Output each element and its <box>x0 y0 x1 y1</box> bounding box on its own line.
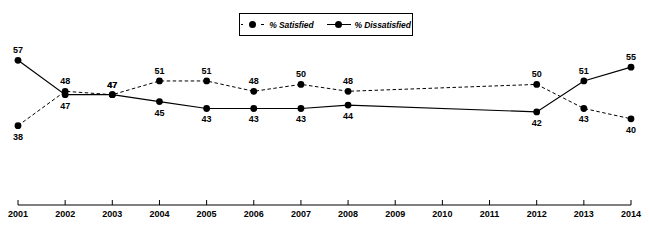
data-label: 51 <box>579 66 589 76</box>
data-label: 42 <box>532 118 542 128</box>
x-axis-tick-label: 2005 <box>197 209 217 219</box>
data-label: 44 <box>343 111 353 121</box>
x-axis-tick-label: 2007 <box>291 209 311 219</box>
data-point <box>580 105 587 112</box>
data-label: 47 <box>107 80 117 90</box>
data-label: 43 <box>579 114 589 124</box>
data-label: 50 <box>532 69 542 79</box>
data-point <box>156 78 163 85</box>
x-axis-tick-label: 2003 <box>102 209 122 219</box>
data-point <box>203 78 210 85</box>
data-point <box>15 57 22 64</box>
x-axis-tick-label: 2008 <box>338 209 358 219</box>
data-label: 43 <box>296 114 306 124</box>
x-axis-tick-label: 2013 <box>574 209 594 219</box>
data-point <box>345 102 352 109</box>
data-label: 48 <box>249 76 259 86</box>
data-label: 40 <box>626 125 636 135</box>
x-axis-tick-label: 2006 <box>244 209 264 219</box>
data-point <box>580 78 587 85</box>
data-point <box>628 64 635 71</box>
x-axis-tick-label: 2009 <box>385 209 405 219</box>
data-label: 47 <box>60 101 70 111</box>
data-label: 45 <box>154 108 164 118</box>
data-label: 38 <box>13 132 23 142</box>
chart-container: % Satisfied % Dissatisfied 2001200220032… <box>0 0 649 227</box>
data-point <box>109 91 116 98</box>
data-label: 57 <box>13 45 23 55</box>
data-label: 43 <box>249 114 259 124</box>
data-point <box>533 81 540 88</box>
x-axis-tick-label: 2014 <box>621 209 641 219</box>
data-label: 51 <box>202 66 212 76</box>
data-label: 55 <box>626 52 636 62</box>
x-axis: 2001200220032004200520062007200820092010… <box>8 200 641 219</box>
x-axis-tick-label: 2010 <box>432 209 452 219</box>
x-axis-tick-label: 2001 <box>8 209 28 219</box>
x-axis-tick-label: 2004 <box>149 209 169 219</box>
data-point <box>298 81 305 88</box>
data-label: 48 <box>60 76 70 86</box>
data-point <box>298 105 305 112</box>
data-label: 51 <box>154 66 164 76</box>
data-point <box>203 105 210 112</box>
x-axis-tick-label: 2002 <box>55 209 75 219</box>
data-label: 50 <box>296 69 306 79</box>
data-point <box>533 109 540 116</box>
data-point <box>250 105 257 112</box>
data-point <box>15 122 22 129</box>
data-point <box>250 88 257 95</box>
data-point <box>156 98 163 105</box>
data-labels-layer: 3848475151485048504340574747454343434442… <box>13 45 636 141</box>
x-axis-tick-label: 2011 <box>480 209 500 219</box>
data-point <box>345 88 352 95</box>
data-label: 48 <box>343 76 353 86</box>
data-label: 43 <box>202 114 212 124</box>
data-point <box>62 91 69 98</box>
x-axis-tick-label: 2012 <box>527 209 547 219</box>
data-point <box>628 115 635 122</box>
chart-plot-area: 2001200220032004200520062007200820092010… <box>0 0 649 227</box>
